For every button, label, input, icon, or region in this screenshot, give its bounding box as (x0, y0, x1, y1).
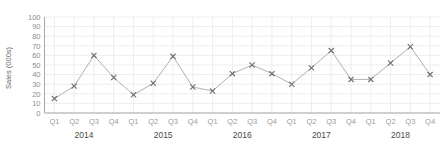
y-axis-tick-label: 60 (32, 51, 40, 60)
y-axis-tick-label: 20 (32, 90, 40, 99)
x-axis-tick-label: Q3 (405, 117, 415, 126)
y-axis-tick-label: 0 (36, 109, 40, 118)
x-axis-tick-label: Q1 (49, 117, 59, 126)
chart-background (0, 0, 445, 153)
x-axis-tick-label: Q1 (208, 117, 218, 126)
y-axis-tick-label: 100 (28, 13, 41, 22)
x-axis-tick-label: Q1 (366, 117, 376, 126)
x-axis-tick-label: Q3 (89, 117, 99, 126)
y-axis-tick-label: 80 (32, 32, 40, 41)
x-axis-group-label: 2017 (312, 130, 331, 140)
x-axis-tick-label: Q2 (227, 117, 237, 126)
x-axis-tick-label: Q4 (188, 117, 198, 126)
x-axis-tick-label: Q3 (326, 117, 336, 126)
x-axis-group-label: 2014 (75, 130, 94, 140)
x-axis-tick-label: Q1 (287, 117, 297, 126)
x-axis-tick-label: Q3 (168, 117, 178, 126)
x-axis-group-label: 2015 (154, 130, 173, 140)
y-axis-tick-label: 30 (32, 80, 40, 89)
x-axis-group-label: 2018 (391, 130, 410, 140)
x-axis-tick-label: Q2 (69, 117, 79, 126)
x-axis-tick-label: Q2 (306, 117, 316, 126)
x-axis-tick-label: Q4 (346, 117, 356, 126)
chart-canvas: 0102030405060708090100 Q1Q2Q3Q4Q1Q2Q3Q4Q… (0, 0, 445, 153)
sales-line-chart: 0102030405060708090100 Q1Q2Q3Q4Q1Q2Q3Q4Q… (0, 0, 445, 153)
y-axis-tick-label: 40 (32, 70, 40, 79)
x-axis-tick-label: Q2 (148, 117, 158, 126)
x-axis-tick-label: Q1 (128, 117, 138, 126)
y-axis-tick-label: 50 (32, 61, 40, 70)
x-axis-tick-label: Q2 (386, 117, 396, 126)
x-axis-tick-label: Q4 (267, 117, 277, 126)
y-axis-tick-label: 10 (32, 99, 40, 108)
x-axis-tick-label: Q3 (247, 117, 257, 126)
x-axis-tick-label: Q4 (425, 117, 435, 126)
y-axis-tick-label: 90 (32, 22, 40, 31)
y-axis-tick-label: 70 (32, 42, 40, 51)
x-axis-tick-label: Q4 (109, 117, 119, 126)
x-axis-group-label: 2016 (233, 130, 252, 140)
y-axis-title: Sales (000s) (4, 46, 13, 89)
